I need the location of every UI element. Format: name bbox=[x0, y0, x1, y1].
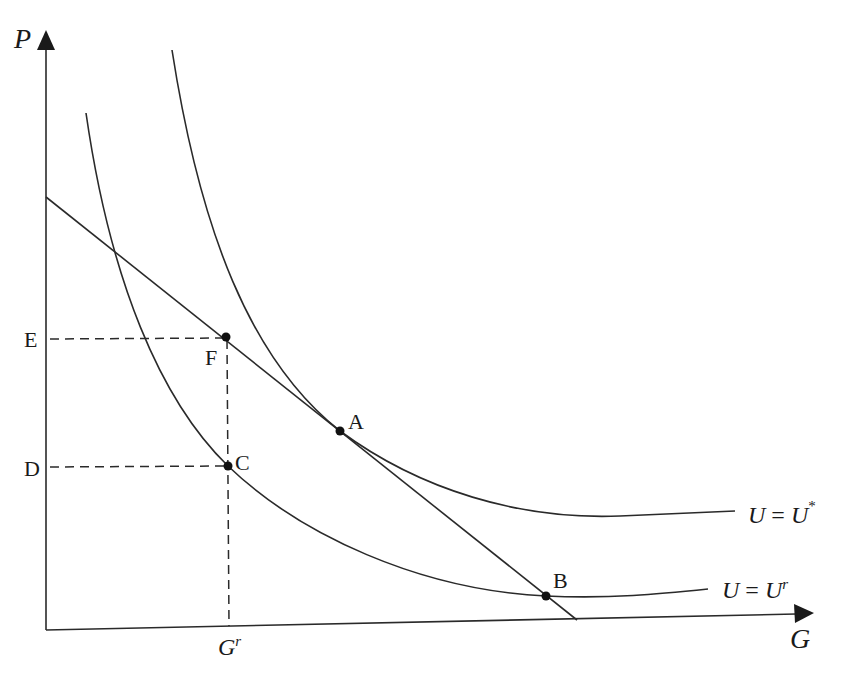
indifference-curve-u-star bbox=[172, 50, 735, 516]
x-tick-label-Gr: Gr bbox=[218, 633, 241, 660]
point-B bbox=[542, 592, 551, 601]
y-tick-label-D: D bbox=[24, 456, 40, 481]
y-axis-label: P bbox=[13, 23, 31, 54]
dashed-line-E-to-F bbox=[50, 338, 224, 339]
y-tick-label-E: E bbox=[24, 327, 37, 352]
guide-lines bbox=[50, 338, 229, 626]
curve-label-u-r: U = Ur bbox=[722, 576, 788, 603]
x-axis: G bbox=[46, 604, 814, 654]
budget-line bbox=[46, 197, 577, 620]
label-C: C bbox=[235, 450, 250, 475]
x-axis-line bbox=[46, 614, 796, 630]
label-F: F bbox=[205, 345, 217, 370]
label-A: A bbox=[348, 409, 364, 434]
dashed-line-D-to-C bbox=[50, 466, 226, 467]
y-axis-arrow-icon bbox=[37, 30, 55, 50]
indifference-curve-u-r bbox=[86, 113, 708, 597]
curve-label-u-star: U = U* bbox=[748, 498, 816, 528]
label-B: B bbox=[553, 568, 568, 593]
x-axis-label: G bbox=[790, 623, 810, 654]
x-axis-arrow-icon bbox=[794, 604, 814, 623]
point-A bbox=[336, 427, 345, 436]
dashed-line-F-to-Gr bbox=[227, 340, 229, 626]
point-C bbox=[224, 462, 233, 471]
point-F bbox=[222, 333, 231, 342]
economics-diagram: P G F C A B E D Gr U = U* U = Ur bbox=[0, 0, 841, 683]
